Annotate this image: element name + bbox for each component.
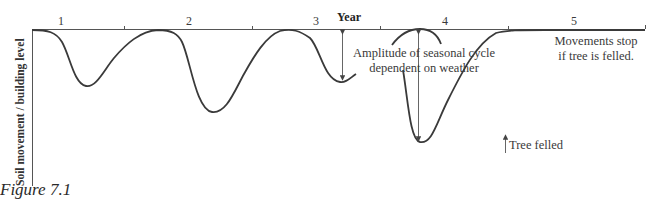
year-label-5: 5	[571, 14, 577, 29]
amplitude-annotation-line2: dependent on weather	[346, 61, 502, 76]
soil-movement-curve	[32, 30, 356, 112]
tree-felled-annotation: Tree felled	[509, 138, 563, 153]
year-label-3: 3	[313, 14, 319, 29]
x-axis-ticks	[125, 25, 646, 29]
amplitude-annotation: Amplitude of seasonal cycle dependent on…	[346, 46, 502, 76]
soil-movement-curve-arc	[392, 29, 441, 45]
amplitude-annotation-line1: Amplitude of seasonal cycle	[346, 46, 502, 61]
year-label-4: 4	[442, 14, 448, 29]
year-label-1: 1	[58, 14, 64, 29]
movements-stop-line2: if tree is felled.	[543, 49, 649, 64]
x-axis-title: Year	[337, 10, 361, 25]
movements-stop-annotation: Movements stop if tree is felled.	[543, 34, 649, 64]
movements-stop-line1: Movements stop	[543, 34, 649, 49]
soil-movement-diagram	[0, 0, 653, 203]
year-label-2: 2	[186, 14, 192, 29]
figure-caption: Figure 7.1	[0, 180, 71, 200]
y-axis-title: Soil movement / building level	[14, 38, 26, 186]
